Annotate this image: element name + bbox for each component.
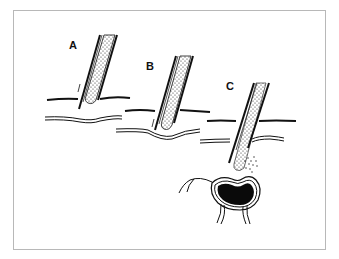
catheter-c <box>229 83 269 171</box>
catheter-b <box>155 56 193 130</box>
panel-b <box>116 56 210 139</box>
diagram-canvas <box>0 0 339 259</box>
panel-c <box>179 83 296 224</box>
target-structure <box>179 177 260 224</box>
arrow-b-icon <box>152 119 154 127</box>
arrow-a-icon <box>78 84 80 92</box>
panel-a <box>45 35 130 123</box>
